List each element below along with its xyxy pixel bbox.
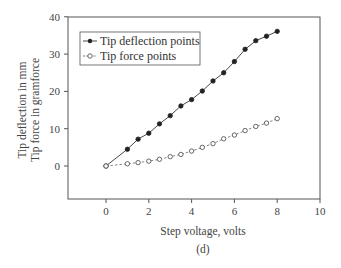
open-circle-marker-icon	[88, 54, 92, 58]
open-circle-marker-icon	[222, 137, 226, 141]
x-tick-label: 6	[232, 205, 238, 217]
filled-circle-marker-icon	[147, 131, 151, 135]
y-tick-label: 10	[49, 123, 61, 135]
open-circle-marker-icon	[200, 145, 204, 149]
filled-circle-marker-icon	[136, 137, 140, 141]
filled-circle-marker-icon	[88, 39, 92, 43]
series-line	[106, 119, 277, 166]
filled-circle-marker-icon	[189, 97, 193, 101]
open-circle-marker-icon	[125, 162, 129, 166]
filled-circle-marker-icon	[200, 89, 204, 93]
figure-caption: (d)	[196, 243, 210, 256]
filled-circle-marker-icon	[264, 34, 268, 38]
chart: 010203040 0246810 Tip deflection points …	[0, 0, 341, 268]
open-circle-marker-icon	[168, 154, 172, 158]
y-axis-label-line-1: Tip deflection in mm	[16, 61, 29, 158]
open-circle-marker-icon	[136, 160, 140, 164]
open-circle-marker-icon	[211, 141, 215, 145]
x-tick-label: 0	[103, 205, 109, 217]
y-tick-label: 0	[55, 160, 61, 172]
open-circle-marker-icon	[243, 128, 247, 132]
filled-circle-marker-icon	[125, 147, 129, 151]
open-circle-marker-icon	[157, 157, 161, 161]
x-tick-label: 4	[189, 205, 195, 217]
x-axis-ticks: 0246810	[103, 199, 326, 217]
open-circle-marker-icon	[179, 152, 183, 156]
filled-circle-marker-icon	[168, 113, 172, 117]
x-tick-label: 10	[315, 205, 327, 217]
filled-circle-marker-icon	[275, 29, 279, 33]
y-tick-label: 20	[49, 85, 61, 97]
open-circle-marker-icon	[264, 121, 268, 125]
y-axis-ticks: 010203040	[49, 11, 68, 172]
x-tick-label: 2	[146, 205, 152, 217]
filled-circle-marker-icon	[254, 38, 258, 42]
filled-circle-marker-icon	[222, 71, 226, 75]
x-tick-label: 8	[274, 205, 280, 217]
open-circle-marker-icon	[104, 164, 108, 168]
open-circle-marker-icon	[189, 149, 193, 153]
filled-circle-marker-icon	[243, 47, 247, 51]
legend-label-deflection: Tip deflection points	[100, 34, 200, 48]
filled-circle-marker-icon	[179, 104, 183, 108]
open-circle-marker-icon	[232, 133, 236, 137]
filled-circle-marker-icon	[211, 79, 215, 83]
x-axis-label: Step voltage, volts	[160, 225, 246, 238]
y-tick-label: 40	[49, 11, 61, 23]
open-circle-marker-icon	[275, 116, 279, 120]
filled-circle-marker-icon	[232, 59, 236, 63]
legend: Tip deflection points Tip force points	[80, 32, 200, 65]
open-circle-marker-icon	[147, 159, 151, 163]
open-circle-marker-icon	[254, 124, 258, 128]
y-tick-label: 30	[49, 48, 61, 60]
legend-item-deflection: Tip deflection points	[83, 34, 200, 48]
y-axis-label-line-2: Tip force in gramforce	[29, 58, 42, 162]
filled-circle-marker-icon	[157, 122, 161, 126]
legend-label-force: Tip force points	[100, 49, 177, 63]
